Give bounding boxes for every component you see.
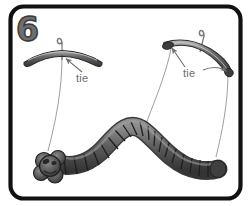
caterpillar-head xyxy=(34,151,66,184)
instruction-panel: 6 tie tie xyxy=(0,0,251,206)
caterpillar-tail xyxy=(210,160,226,177)
tie-label-left: tie xyxy=(76,73,88,84)
step-number: 6 xyxy=(16,13,39,46)
tie-label-right: tie xyxy=(183,68,195,79)
